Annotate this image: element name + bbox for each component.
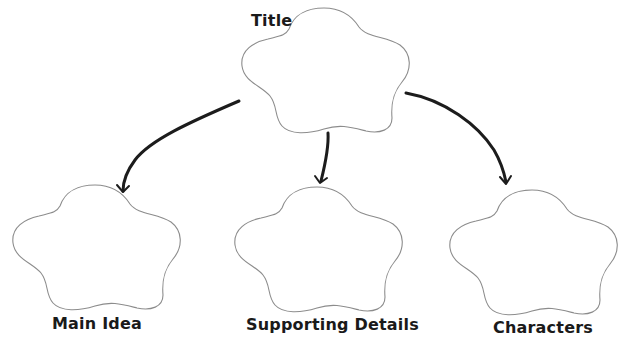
characters-cloud-shape xyxy=(450,190,618,316)
main-idea-cloud-shape xyxy=(13,185,181,311)
diagram-canvas: Title Main Idea Supporting Details Chara… xyxy=(0,0,625,344)
supporting-details-cloud-shape xyxy=(235,187,403,313)
arrow-to-characters xyxy=(406,93,511,184)
main-idea-label: Main Idea xyxy=(52,316,142,332)
characters-label: Characters xyxy=(493,320,593,336)
title-label: Title xyxy=(251,13,292,29)
supporting-details-label: Supporting Details xyxy=(246,317,419,333)
arrow-to-supporting-details xyxy=(315,133,328,183)
arrow-to-main-idea xyxy=(117,101,239,192)
